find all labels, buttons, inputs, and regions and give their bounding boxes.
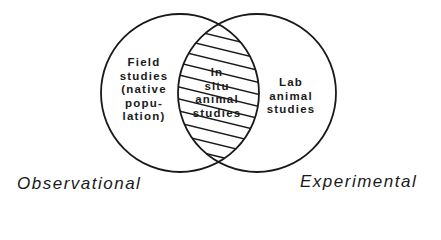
field-studies-label: Field studies (native popu- lation) [113, 56, 175, 124]
observational-caption: Observational [17, 174, 141, 194]
label-line: studies [261, 103, 321, 117]
label-line: studies [113, 70, 175, 84]
label-line: situ [181, 80, 253, 94]
label-line: lation) [113, 110, 175, 124]
label-line: animal [181, 93, 253, 107]
label-line: Lab [261, 76, 321, 90]
label-line: animal [261, 90, 321, 104]
label-line: In [181, 66, 253, 80]
lab-animal-label: Lab animal studies [261, 76, 321, 117]
label-line: studies [181, 107, 253, 121]
label-line: Field [113, 56, 175, 70]
experimental-caption: Experimental [300, 172, 417, 192]
label-line: popu- [113, 97, 175, 111]
in-situ-label: In situ animal studies [181, 66, 253, 120]
label-line: (native [113, 83, 175, 97]
